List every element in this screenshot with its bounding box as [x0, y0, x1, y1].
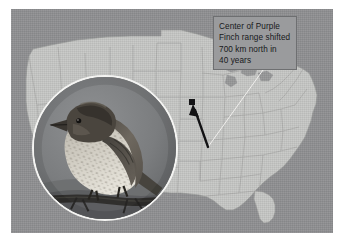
range-shift-callout: Center of Purple Finch range shifted 700… [213, 16, 297, 70]
florida-peninsula [254, 191, 275, 223]
figure-container: Center of Purple Finch range shifted 700… [0, 0, 345, 245]
callout-line-4: 40 years [219, 55, 292, 66]
purple-finch-photo-image [34, 77, 176, 219]
purple-finch-photo [32, 75, 178, 221]
callout-line-3: 700 km north in [219, 44, 292, 55]
callout-line-2: Finch range shifted [219, 32, 292, 43]
callout-line-1: Center of Purple [219, 21, 292, 32]
